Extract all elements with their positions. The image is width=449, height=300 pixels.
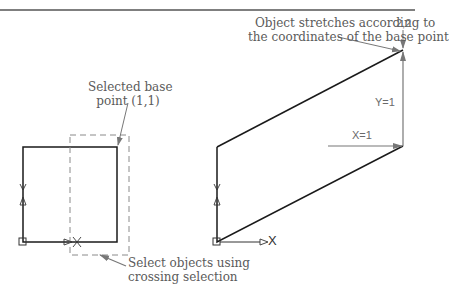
base-point-line1: Selected base	[88, 80, 168, 94]
left-panel	[19, 103, 129, 266]
stretched-object	[217, 146, 403, 242]
crossing-selection-note: Select objects using crossing selection	[128, 256, 250, 284]
target-point-label: 2,2	[396, 16, 411, 30]
stretch-note: Object stretches according to the coordi…	[248, 16, 448, 44]
x-displacement-label: X=1	[352, 128, 372, 142]
crossing-selection-window	[70, 135, 129, 255]
crossing-selection-leader	[100, 255, 126, 266]
crossing-line2: crossing selection	[128, 270, 250, 284]
ucs-icon-right	[213, 184, 268, 245]
base-point-line2: point (1,1)	[88, 94, 168, 108]
crossing-line1: Select objects using	[128, 256, 250, 270]
base-point-note: Selected base point (1,1)	[88, 80, 168, 108]
ucs-icon-left	[19, 184, 81, 247]
ucs-x-arrow-icon	[260, 239, 268, 245]
y-displacement-label: Y=1	[375, 95, 395, 109]
stretch-note-line1: Object stretches according to	[248, 16, 448, 30]
right-panel	[213, 30, 403, 245]
ucs-x-label-right: X	[268, 234, 277, 248]
stretch-note-line2: the coordinates of the base point	[248, 30, 448, 44]
base-point-leader	[118, 103, 128, 145]
